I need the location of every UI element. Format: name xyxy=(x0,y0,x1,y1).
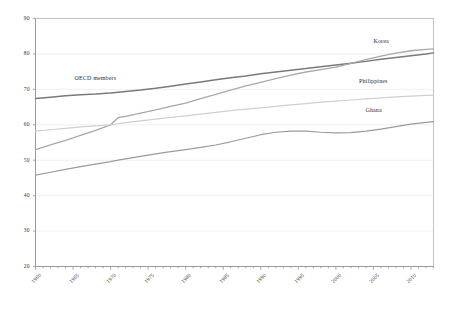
x-axis-ticks xyxy=(36,267,434,270)
series-label-oecd-members: OECD members xyxy=(75,75,117,81)
y-tick-label-70: 70 xyxy=(14,86,30,92)
y-tick-label-90: 90 xyxy=(14,15,30,21)
series-label-philippines: Philippines xyxy=(359,78,388,84)
axis-lines xyxy=(36,19,434,267)
series-label-korea: Korea xyxy=(373,38,388,44)
y-tick-label-20: 20 xyxy=(14,263,30,269)
plot-border xyxy=(36,19,434,267)
gridlines-group xyxy=(36,19,434,232)
y-tick-label-80: 80 xyxy=(14,50,30,56)
series-line-korea xyxy=(36,49,434,150)
series-line-philippines xyxy=(36,95,434,131)
series-label-ghana: Ghana xyxy=(365,107,381,113)
y-tick-label-30: 30 xyxy=(14,227,30,233)
y-tick-label-40: 40 xyxy=(14,192,30,198)
y-tick-label-50: 50 xyxy=(14,157,30,163)
chart-container: 2030405060708090 19601965197019751980198… xyxy=(0,0,454,311)
series-line-ghana xyxy=(36,122,434,175)
line-chart-plot xyxy=(0,0,454,311)
y-tick-label-60: 60 xyxy=(14,121,30,127)
